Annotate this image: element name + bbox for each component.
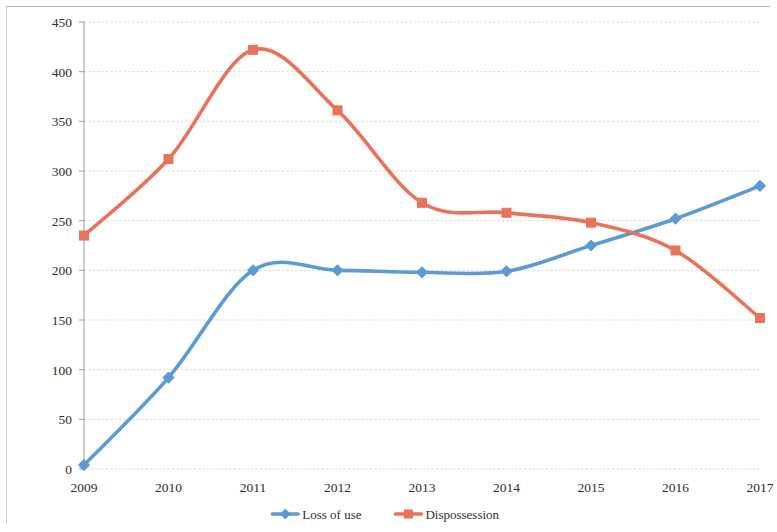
data-point-marker	[670, 213, 681, 224]
axes	[79, 22, 84, 469]
series-dispossession	[80, 45, 765, 322]
data-point-marker	[80, 231, 89, 240]
y-axis-tick-label: 200	[52, 263, 73, 278]
y-axis-tick-label: 150	[52, 313, 73, 328]
data-point-marker	[671, 246, 680, 255]
data-point-marker	[502, 208, 511, 217]
x-axis-tick-label: 2010	[155, 480, 182, 495]
legend-swatch-marker	[404, 510, 413, 519]
data-point-marker	[585, 240, 596, 251]
data-point-marker	[164, 155, 173, 164]
series-line	[84, 186, 760, 465]
y-axis-tick-label: 100	[52, 363, 73, 378]
legend-item-loss-of-use[interactable]: Loss of use	[272, 507, 361, 522]
y-axis-tick-label: 0	[65, 462, 72, 477]
y-axis-tick-label: 50	[59, 412, 73, 427]
data-point-marker	[587, 218, 596, 227]
line-chart: 050100150200250300350400450 200920102011…	[0, 0, 777, 532]
chart-canvas: 050100150200250300350400450 200920102011…	[0, 0, 777, 532]
x-axis-tick-label: 2013	[409, 480, 436, 495]
data-point-marker	[249, 45, 258, 54]
series-loss-of-use	[78, 180, 765, 470]
data-point-marker	[756, 314, 765, 323]
legend-swatch-marker	[280, 509, 291, 520]
chart-legend: Loss of useDispossession	[272, 507, 499, 522]
x-axis-tick-label: 2011	[240, 480, 267, 495]
data-point-marker	[501, 266, 512, 277]
data-point-marker	[418, 198, 427, 207]
data-point-marker	[416, 267, 427, 278]
x-axis-tick-label: 2016	[662, 480, 689, 495]
legend-item-dispossession[interactable]: Dispossession	[395, 507, 499, 522]
data-point-marker	[333, 106, 342, 115]
x-axis-tick-labels: 200920102011201220132014201520162017	[71, 480, 774, 495]
data-point-marker	[332, 265, 343, 276]
y-axis-tick-label: 350	[52, 114, 73, 129]
gridlines	[84, 22, 760, 469]
x-axis-tick-label: 2012	[324, 480, 351, 495]
x-axis-tick-label: 2014	[493, 480, 520, 495]
data-point-marker	[754, 180, 765, 191]
y-axis-tick-label: 300	[52, 164, 73, 179]
y-axis-tick-labels: 050100150200250300350400450	[52, 15, 73, 477]
data-series-layer	[78, 45, 765, 470]
x-axis-tick-label: 2009	[71, 480, 98, 495]
x-axis-tick-label: 2017	[747, 480, 774, 495]
x-axis-tick-label: 2015	[578, 480, 605, 495]
legend-label: Dispossession	[425, 507, 499, 522]
y-axis-tick-label: 250	[52, 214, 73, 229]
legend-label: Loss of use	[302, 507, 361, 522]
y-axis-tick-label: 450	[52, 15, 73, 30]
y-axis-tick-label: 400	[52, 65, 73, 80]
